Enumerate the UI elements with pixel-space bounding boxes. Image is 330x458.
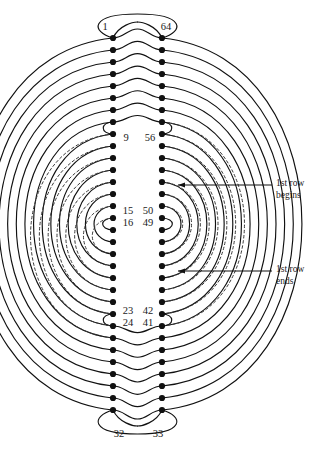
left-outer-arc — [85, 194, 113, 254]
node-dot-left — [110, 407, 116, 413]
node-dot-left — [110, 35, 116, 41]
right-outer-arc — [162, 86, 267, 362]
right-outer-arc — [162, 206, 181, 242]
left-outer-arc — [68, 170, 113, 278]
node-dot-right — [159, 215, 165, 221]
number-label-top_left: 1 — [102, 21, 107, 32]
node-dot-left — [110, 167, 116, 173]
node-dot-right — [159, 383, 165, 389]
right-dashed-arc — [162, 170, 209, 278]
node-dot-right — [159, 395, 165, 401]
number-label-lower_start_right: 49 — [143, 217, 154, 228]
node-dot-right — [159, 179, 165, 185]
top-cusp-connector — [113, 115, 162, 122]
left-outer-arc — [0, 62, 113, 386]
node-dot-right — [159, 59, 165, 65]
node-dot-left — [110, 347, 116, 353]
bottom-cusp-connector — [113, 386, 162, 394]
bottom-cusp-connector — [113, 350, 162, 357]
right-outer-arc — [162, 98, 259, 350]
number-label-upper_end_right: 50 — [143, 205, 154, 216]
node-dot-left — [110, 395, 116, 401]
node-dot-right — [159, 107, 165, 113]
node-dot-left — [110, 287, 116, 293]
node-dot-left — [110, 299, 116, 305]
number-label-mid_lower_left: 23 — [123, 305, 134, 316]
first-row-begins-label-line1: 1st row — [276, 178, 304, 188]
figure-root: 16495615501649234224413233 1st rowbegins… — [0, 0, 330, 458]
node-dot-right — [159, 311, 165, 317]
node-dot-right — [159, 371, 165, 377]
number-label-upper_end_left: 15 — [123, 205, 134, 216]
right-outer-arc — [162, 122, 241, 326]
labyrinth-diagram: 16495615501649234224413233 1st rowbegins… — [0, 0, 330, 458]
node-dot-left — [110, 131, 116, 137]
node-dot-left — [110, 107, 116, 113]
number-label-top_right: 64 — [161, 21, 172, 32]
node-dot-right — [159, 203, 165, 209]
node-dot-left — [110, 239, 116, 245]
left-outer-arc — [51, 146, 113, 302]
node-dot-left — [110, 359, 116, 365]
top-cusp-connector — [113, 103, 162, 110]
node-dot-left — [110, 251, 116, 257]
right-dashed-arc — [162, 122, 244, 326]
bottom-cusp-connector — [113, 326, 162, 333]
node-dot-left — [110, 83, 116, 89]
node-dot-left — [110, 59, 116, 65]
node-dot-left — [110, 323, 116, 329]
left-outer-arc — [0, 74, 113, 374]
number-label-inner_lower_left: 24 — [123, 317, 134, 328]
right-dashed-arc — [162, 194, 192, 254]
top-cusp-connector — [113, 29, 162, 38]
node-dot-right — [159, 191, 165, 197]
node-dot-left — [110, 335, 116, 341]
top-cusp-connector — [113, 41, 162, 50]
node-dot-right — [159, 263, 165, 269]
first-row-ends-label-line2: ends — [276, 276, 294, 286]
node-dot-right — [159, 227, 165, 233]
node-dot-right — [159, 251, 165, 257]
left-outer-arc — [0, 50, 113, 398]
node-dot-right — [159, 95, 165, 101]
node-dot-right — [159, 275, 165, 281]
node-dot-right — [159, 143, 165, 149]
node-dot-right — [159, 155, 165, 161]
node-dot-right — [159, 71, 165, 77]
node-dot-right — [159, 239, 165, 245]
node-dot-right — [159, 131, 165, 137]
bottom-cusp-connector — [113, 338, 162, 345]
node-dot-left — [110, 227, 116, 233]
first-row-ends-label-line1: 1st row — [276, 264, 304, 274]
node-dot-right — [159, 119, 165, 125]
right-dashed-arc — [162, 146, 227, 302]
node-dot-left — [110, 263, 116, 269]
node-dot-right — [159, 335, 165, 341]
right-outer-arc — [162, 158, 216, 290]
number-label-inner_lower_right: 41 — [143, 317, 154, 328]
node-dot-left — [110, 203, 116, 209]
node-dot-left — [110, 275, 116, 281]
node-dot-left — [110, 215, 116, 221]
node-dot-left — [110, 47, 116, 53]
bottom-cusp-connector — [113, 398, 162, 407]
node-dot-right — [159, 35, 165, 41]
node-dot-right — [159, 167, 165, 173]
node-dot-right — [159, 359, 165, 365]
bottom-cusp-connector — [113, 362, 162, 370]
node-dot-group — [110, 35, 165, 413]
node-dot-right — [159, 347, 165, 353]
number-label-lower_start_left: 16 — [123, 217, 134, 228]
left-outer-arc — [34, 122, 113, 326]
number-label-mid_upper_right: 56 — [145, 132, 156, 143]
node-dot-left — [110, 71, 116, 77]
node-dot-left — [110, 371, 116, 377]
right-outer-arc — [162, 38, 302, 410]
left-outer-arc — [0, 38, 113, 410]
node-dot-left — [110, 95, 116, 101]
right-outer-arc — [162, 194, 190, 254]
first-row-begins-label-line2: begins — [276, 190, 301, 200]
bottom-cusp-connector — [113, 374, 162, 382]
bottom-outer-ellipse — [98, 410, 177, 434]
number-label-bottom_right: 33 — [153, 428, 164, 439]
